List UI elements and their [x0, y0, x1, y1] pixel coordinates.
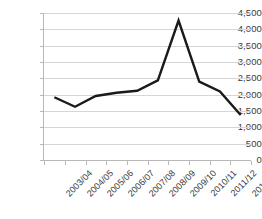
data-line-series-0: [54, 21, 240, 115]
line-chart: 4,500 4,000 3,500 3,000 2,500 2,000 1,50…: [0, 0, 262, 219]
series-layer: [0, 0, 262, 219]
